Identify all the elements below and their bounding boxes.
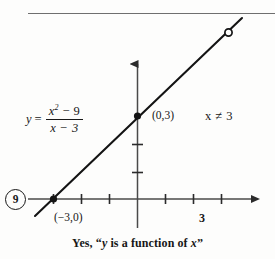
caption-prefix: Yes, “ [72,236,102,250]
x-tick-label-3: 3 [199,212,205,224]
equation-denominator: x − 3 [47,120,81,135]
open-circle-hole [225,29,232,36]
point-y-intercept [134,112,141,119]
exercise-number-badge: 9 [5,189,26,210]
numerator-rest: − 9 [63,104,81,118]
numerator-exponent: 2 [55,103,59,112]
equation-equals: = [35,113,42,126]
equation-label: y = x2 − 9 x − 3 [26,104,83,134]
restriction-label: x ≠ 3 [205,110,233,123]
figure-container: y = x2 − 9 x − 3 x ≠ 3 (0,3) (−3,0) 3 9 … [0,0,275,259]
figure-caption: Yes, “y is a function of x” [0,237,275,249]
equation-fraction: x2 − 9 x − 3 [46,104,84,134]
point-x-intercept [50,195,57,202]
label-y-intercept: (0,3) [152,110,174,122]
equation-numerator: x2 − 9 [46,104,84,119]
label-x-intercept: (−3,0) [54,212,83,224]
caption-middle: is a function of [107,236,190,250]
caption-suffix: ” [197,236,203,250]
equation-lhs: y [26,113,32,126]
